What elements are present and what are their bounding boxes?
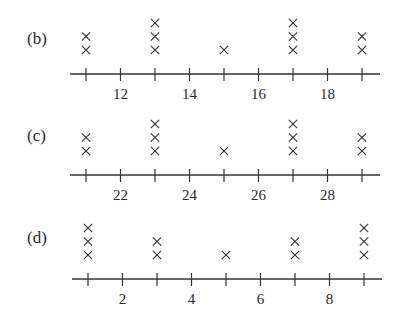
x-marker <box>151 147 159 155</box>
x-marker <box>84 251 92 259</box>
x-marker <box>222 251 230 259</box>
x-tick-label: 18 <box>320 86 335 102</box>
x-tick-label: 16 <box>251 86 267 102</box>
x-marker <box>151 133 159 141</box>
x-marker <box>358 32 366 40</box>
x-tick-label: 8 <box>326 291 334 307</box>
x-tick-label: 4 <box>188 291 196 307</box>
panel-label: (b) <box>27 29 47 48</box>
x-tick-label: 22 <box>113 187 128 203</box>
x-marker <box>289 32 297 40</box>
x-marker <box>153 237 161 245</box>
x-marker <box>82 32 90 40</box>
x-marker <box>220 147 228 155</box>
x-marker <box>220 46 228 54</box>
x-marker <box>153 251 161 259</box>
x-marker <box>358 133 366 141</box>
x-tick-label: 14 <box>182 86 198 102</box>
x-marker <box>289 133 297 141</box>
dot-plot-panel: (b)12141618 <box>27 19 380 102</box>
x-marker <box>291 251 299 259</box>
x-marker <box>82 46 90 54</box>
x-marker <box>360 237 368 245</box>
x-marker <box>82 133 90 141</box>
x-marker <box>84 224 92 232</box>
x-marker <box>289 46 297 54</box>
x-marker <box>291 237 299 245</box>
x-marker <box>358 147 366 155</box>
x-tick-label: 28 <box>320 187 335 203</box>
x-tick-label: 6 <box>257 291 265 307</box>
x-marker <box>360 224 368 232</box>
x-tick-label: 26 <box>251 187 267 203</box>
dot-plot-panel: (d)2468 <box>27 224 382 307</box>
x-marker <box>151 46 159 54</box>
x-marker <box>151 19 159 27</box>
x-marker <box>84 237 92 245</box>
x-marker <box>151 32 159 40</box>
x-tick-label: 2 <box>119 291 127 307</box>
x-marker <box>289 19 297 27</box>
x-marker <box>82 147 90 155</box>
x-marker <box>289 120 297 128</box>
x-marker <box>289 147 297 155</box>
x-marker <box>151 120 159 128</box>
x-marker <box>360 251 368 259</box>
x-tick-label: 12 <box>113 86 128 102</box>
dot-plot-figure: (b)12141618(c)22242628(d)2468 <box>0 0 404 327</box>
panel-label: (c) <box>27 126 46 145</box>
x-tick-label: 24 <box>182 187 198 203</box>
x-marker <box>358 46 366 54</box>
dot-plot-panel: (c)22242628 <box>27 120 380 203</box>
panel-label: (d) <box>27 228 47 247</box>
